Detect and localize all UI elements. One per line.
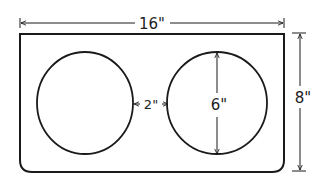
diagram-canvas: 16" 8" 2" 6" bbox=[0, 0, 329, 183]
width-dimension: 16" bbox=[20, 15, 284, 33]
gap-dimension: 2" bbox=[134, 97, 168, 112]
height-dimension: 8" bbox=[292, 33, 311, 171]
diameter-dimension: 6" bbox=[211, 53, 227, 154]
diameter-label: 6" bbox=[211, 96, 227, 114]
gap-label: 2" bbox=[144, 97, 158, 112]
left-circle-cutout bbox=[37, 52, 133, 154]
height-label: 8" bbox=[295, 89, 311, 107]
width-label: 16" bbox=[139, 15, 165, 33]
